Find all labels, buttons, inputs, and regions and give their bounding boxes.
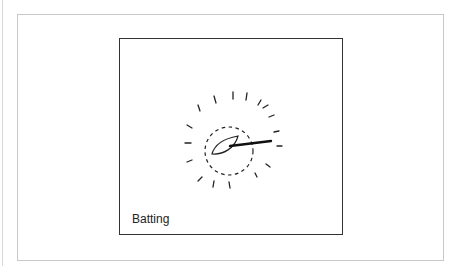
left-edge-divider [2,0,3,266]
batting-icon [120,39,344,236]
batting-panel: Batting [119,38,343,235]
batting-caption: Batting [132,212,169,226]
